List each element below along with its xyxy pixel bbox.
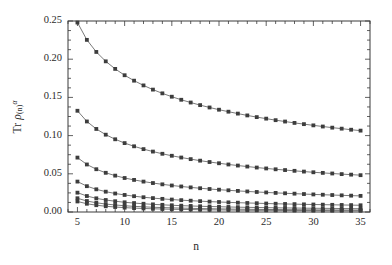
y-axis-label-subscript: (n) [15, 105, 24, 114]
data-point [330, 126, 334, 130]
data-point [113, 67, 117, 71]
data-point [94, 127, 98, 131]
data-point [132, 206, 136, 210]
data-point [255, 166, 259, 170]
data-point [340, 203, 344, 207]
data-point [208, 208, 212, 212]
data-point [330, 209, 334, 213]
x-axis-label: n [0, 240, 392, 252]
data-point [198, 199, 202, 203]
y-tick-label: 0.05 [20, 167, 62, 178]
data-point [264, 191, 268, 195]
data-point [170, 154, 174, 158]
data-point [198, 159, 202, 163]
data-point [217, 208, 221, 212]
data-point [227, 163, 231, 167]
plot-frame [68, 21, 370, 212]
data-point [179, 156, 183, 160]
x-tick-label: 5 [57, 216, 97, 227]
data-point [94, 167, 98, 171]
data-point [94, 187, 98, 191]
data-point [85, 38, 89, 42]
data-point [142, 180, 146, 184]
data-point [236, 201, 240, 205]
data-point [264, 202, 268, 206]
data-point [76, 180, 80, 184]
data-point [217, 188, 221, 192]
data-point [113, 192, 117, 196]
data-point [283, 191, 287, 195]
series-curve-2 [76, 109, 363, 177]
data-point [104, 171, 108, 175]
data-point [132, 201, 136, 205]
data-point [160, 207, 164, 211]
data-point [255, 201, 259, 205]
data-point [189, 199, 193, 203]
data-point [255, 115, 259, 119]
data-point [198, 103, 202, 107]
data-point [236, 112, 240, 116]
data-point [76, 21, 80, 25]
data-point [113, 137, 117, 141]
data-point [208, 187, 212, 191]
data-point [113, 174, 117, 178]
data-point [321, 125, 325, 129]
data-point [85, 184, 89, 188]
data-point [293, 169, 297, 173]
data-point [255, 208, 259, 212]
y-axis-label-symbol: ρ [11, 114, 23, 120]
data-point [302, 122, 306, 126]
data-point [311, 170, 315, 174]
data-point [321, 209, 325, 213]
data-point [236, 189, 240, 193]
data-point [245, 190, 249, 194]
x-tick-label: 25 [246, 216, 286, 227]
data-point [189, 157, 193, 161]
figure-container: Tr ρ(n)α n 51015202530350.000.050.100.15… [0, 0, 392, 265]
data-point [227, 110, 231, 114]
data-point [274, 118, 278, 122]
data-point [274, 167, 278, 171]
data-point [349, 209, 353, 213]
series-line [77, 23, 360, 131]
x-tick-label: 30 [293, 216, 333, 227]
data-point [76, 109, 80, 113]
data-point [132, 79, 136, 83]
data-point [179, 198, 183, 202]
data-point [359, 209, 363, 213]
data-point [198, 208, 202, 212]
data-point [160, 91, 164, 95]
data-point [283, 209, 287, 213]
data-point [76, 156, 80, 160]
data-point [302, 192, 306, 196]
data-point [132, 144, 136, 148]
x-tick-label: 10 [105, 216, 145, 227]
data-point [349, 194, 353, 198]
data-point [227, 200, 231, 204]
data-point [113, 199, 117, 203]
data-point [76, 191, 80, 195]
data-point [142, 207, 146, 211]
data-point [208, 106, 212, 110]
data-point [123, 206, 127, 210]
data-point [311, 209, 315, 213]
data-point [104, 133, 108, 137]
data-point [330, 172, 334, 176]
data-point [123, 176, 127, 180]
data-point [245, 201, 249, 205]
y-tick-label: 0.20 [20, 52, 62, 63]
data-point [198, 186, 202, 190]
data-point [359, 129, 363, 133]
data-point [283, 168, 287, 172]
data-point [359, 194, 363, 198]
data-point [123, 200, 127, 204]
data-point [151, 150, 155, 154]
data-point [104, 59, 108, 63]
x-tick-label: 35 [341, 216, 381, 227]
data-point [94, 50, 98, 54]
x-tick-label: 20 [199, 216, 239, 227]
data-point [227, 188, 231, 192]
data-point [170, 95, 174, 99]
data-point [264, 117, 268, 121]
data-point [123, 193, 127, 197]
